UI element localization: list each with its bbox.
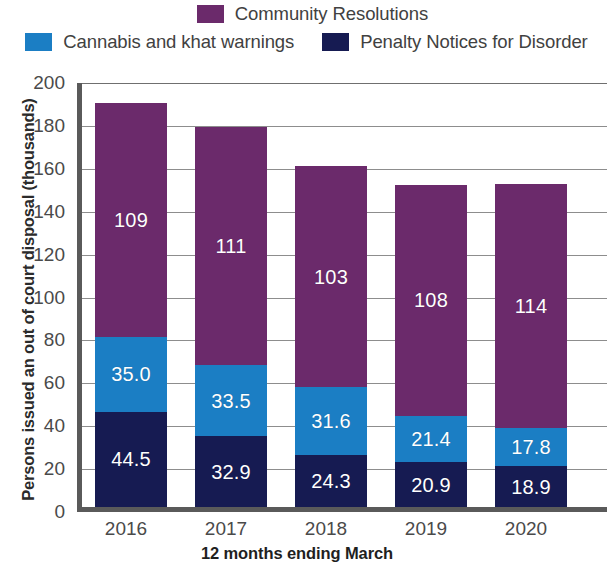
chart-legend: Community Resolutions Cannabis and khat … <box>0 0 607 60</box>
y-axis-tick-label: 180 <box>33 115 65 137</box>
legend-entry: Penalty Notices for Disorder <box>322 31 588 53</box>
bar-value-label: 20.9 <box>411 475 451 495</box>
legend-swatch-community-resolutions <box>197 5 224 23</box>
bar-value-label: 114 <box>515 296 548 316</box>
bar-value-label: 21.4 <box>411 429 451 449</box>
y-axis-tick-label: 120 <box>33 244 65 266</box>
x-axis-tick-label: 2020 <box>505 518 547 540</box>
bar-segment[interactable]: 44.5 <box>95 412 167 507</box>
y-axis-tick-label: 0 <box>54 501 65 523</box>
x-axis-title: 12 months ending March <box>77 544 517 563</box>
bar-segment[interactable]: 20.9 <box>395 462 467 507</box>
bar-value-label: 108 <box>414 290 448 310</box>
bar-group[interactable]: 11417.818.9 <box>495 184 567 507</box>
legend-entry: Community Resolutions <box>197 3 428 25</box>
y-axis-tick-label: 200 <box>33 72 65 94</box>
y-axis-tick-label: 160 <box>33 158 65 180</box>
bar-segment[interactable]: 32.9 <box>195 436 267 507</box>
legend-row-1: Community Resolutions <box>0 0 607 28</box>
x-axis-tick-label: 2016 <box>105 518 147 540</box>
bar-group[interactable]: 10935.044.5 <box>95 103 167 507</box>
bar-value-label: 103 <box>314 267 348 287</box>
bar-segment[interactable]: 35.0 <box>95 337 167 412</box>
legend-swatch-penalty-notices-for-disorder <box>322 33 349 51</box>
x-axis-tick-label: 2019 <box>405 518 447 540</box>
bar-value-label: 17.8 <box>511 437 551 457</box>
y-axis-tick-label: 20 <box>44 458 65 480</box>
bar-value-label: 35.0 <box>111 364 151 384</box>
y-axis-tick-label: 100 <box>33 287 65 309</box>
bar-value-label: 44.5 <box>111 449 151 469</box>
legend-label: Community Resolutions <box>235 3 428 25</box>
legend-entry: Cannabis and khat warnings <box>25 31 294 53</box>
bar-segment[interactable]: 114 <box>495 184 567 429</box>
bar-value-label: 109 <box>114 210 148 230</box>
legend-label: Cannabis and khat warnings <box>63 31 294 53</box>
x-axis-tick-label: 2018 <box>305 518 347 540</box>
bar-value-label: 18.9 <box>511 477 551 497</box>
bar-segment[interactable]: 17.8 <box>495 428 567 466</box>
y-axis-tick-label: 40 <box>44 415 65 437</box>
y-axis-tick-label: 140 <box>33 201 65 223</box>
x-axis-tick-label: 2017 <box>205 518 247 540</box>
bar-segment[interactable]: 108 <box>395 185 467 417</box>
x-axis-tick-labels: 20162017201820192020 <box>77 518 607 546</box>
bar-segment[interactable]: 18.9 <box>495 466 567 507</box>
legend-swatch-cannabis-and-khat-warnings <box>25 33 52 51</box>
plot-area: 10935.044.511133.532.910331.624.310821.4… <box>77 83 607 512</box>
y-axis-tick-label: 60 <box>44 372 65 394</box>
bar-value-label: 32.9 <box>211 462 251 482</box>
y-axis-title: Persons issued an out of court disposal … <box>19 85 38 515</box>
bar-value-label: 33.5 <box>211 391 251 411</box>
bar-value-label: 111 <box>215 236 246 256</box>
bar-segment[interactable]: 103 <box>295 166 367 387</box>
bar-group[interactable]: 10331.624.3 <box>295 166 367 507</box>
y-axis-tick-label: 80 <box>44 329 65 351</box>
bar-segment[interactable]: 24.3 <box>295 455 367 507</box>
bar-segment[interactable]: 111 <box>195 127 267 365</box>
bar-segment[interactable]: 31.6 <box>295 387 367 455</box>
bar-segment[interactable]: 21.4 <box>395 416 467 462</box>
legend-row-2: Cannabis and khat warningsPenalty Notice… <box>0 28 607 56</box>
bar-group[interactable]: 11133.532.9 <box>195 127 267 508</box>
bar-value-label: 31.6 <box>311 411 351 431</box>
bar-group[interactable]: 10821.420.9 <box>395 185 467 507</box>
bar-segment[interactable]: 33.5 <box>195 365 267 437</box>
bar-series-container: 10935.044.511133.532.910331.624.310821.4… <box>82 83 607 507</box>
bar-value-label: 24.3 <box>311 471 351 491</box>
legend-label: Penalty Notices for Disorder <box>360 31 588 53</box>
bar-segment[interactable]: 109 <box>95 103 167 337</box>
